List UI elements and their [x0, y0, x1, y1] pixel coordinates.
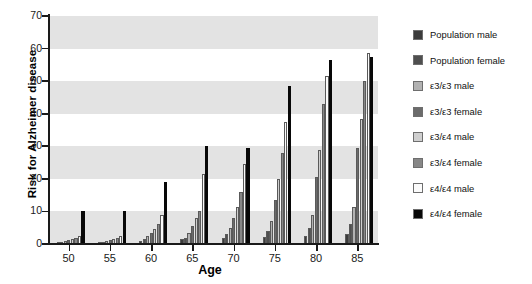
legend-swatch-icon	[413, 183, 423, 193]
x-axis-line	[47, 243, 379, 245]
legend-item-label: ε3/ε3 female	[430, 107, 482, 116]
bar	[164, 182, 167, 244]
x-axis-tick	[234, 245, 236, 251]
y-axis-tick-labels: 010203040506070	[0, 0, 42, 284]
y-axis-tick-label: 60	[8, 42, 42, 54]
legend-item[interactable]: Population male	[413, 22, 532, 48]
legend: Population malePopulation femaleε3/ε3 ma…	[413, 22, 532, 227]
bar	[329, 60, 332, 244]
legend-swatch-icon	[413, 158, 423, 168]
legend-swatch-icon	[413, 209, 423, 219]
x-axis-tick	[316, 245, 318, 251]
y-axis-tick-label: 10	[8, 204, 42, 216]
x-axis-tick	[357, 245, 359, 251]
x-axis-tick	[275, 245, 277, 251]
legend-item[interactable]: Population female	[413, 48, 532, 74]
y-axis-tick-label: 70	[8, 9, 42, 21]
bar	[205, 146, 208, 244]
x-axis-tick	[110, 245, 112, 251]
legend-item-label: ε4/ε4 male	[430, 184, 474, 193]
legend-item[interactable]: ε3/ε3 male	[413, 73, 532, 99]
legend-item[interactable]: ε3/ε4 male	[413, 124, 532, 150]
x-axis-tick	[151, 245, 153, 251]
legend-swatch-icon	[413, 132, 423, 142]
legend-swatch-icon	[413, 107, 423, 117]
bar	[123, 211, 126, 244]
bar	[81, 211, 84, 244]
legend-item-label: ε4/ε4 female	[430, 209, 482, 218]
bar	[288, 86, 291, 244]
legend-item[interactable]: ε4/ε4 female	[413, 201, 532, 227]
bar	[246, 148, 249, 244]
y-axis-line	[48, 14, 50, 245]
background-band	[48, 16, 378, 49]
legend-item-label: ε3/ε4 male	[430, 132, 474, 141]
legend-item-label: Population female	[430, 56, 505, 65]
alzheimer-risk-by-age-chart: Risk for Alzheimer disease 0102030405060…	[0, 0, 532, 284]
y-axis-tick-label: 40	[8, 107, 42, 119]
y-axis-tick-label: 20	[8, 172, 42, 184]
y-axis-tick-label: 50	[8, 74, 42, 86]
bar	[370, 57, 373, 244]
x-axis-title: Age	[0, 263, 420, 277]
legend-item[interactable]: ε3/ε3 female	[413, 99, 532, 125]
legend-item-label: ε3/ε3 male	[430, 81, 474, 90]
y-axis-tick-label: 0	[8, 237, 42, 249]
x-axis-tick	[192, 245, 194, 251]
x-axis-tick	[69, 245, 71, 251]
legend-swatch-icon	[413, 55, 423, 65]
legend-item[interactable]: ε3/ε4 female	[413, 150, 532, 176]
legend-swatch-icon	[413, 30, 423, 40]
legend-item-label: Population male	[430, 30, 497, 39]
plot-area	[48, 16, 378, 244]
y-axis-tick-label: 30	[8, 139, 42, 151]
legend-item-label: ε3/ε4 female	[430, 158, 482, 167]
legend-swatch-icon	[413, 81, 423, 91]
legend-item[interactable]: ε4/ε4 male	[413, 176, 532, 202]
